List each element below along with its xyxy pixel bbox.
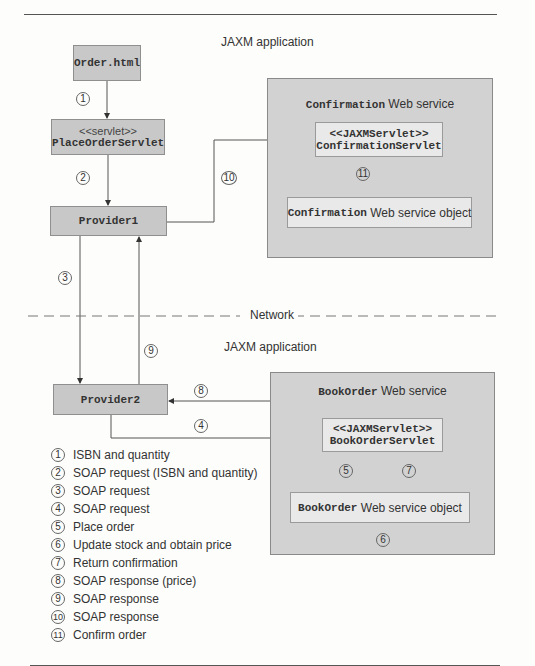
step-marker-7: 7	[402, 464, 416, 478]
confirmation-servlet-node: <<JAXMServlet>> ConfirmationServlet	[315, 122, 443, 157]
jaxm-servlet-stereotype: <<JAXMServlet>>	[333, 423, 432, 435]
bottom-application-label: JAXM application	[224, 340, 317, 354]
legend-item: 3SOAP request	[51, 482, 258, 500]
step-marker-3: 3	[58, 271, 72, 285]
jaxm-servlet-stereotype: <<JAXMServlet>>	[329, 128, 428, 140]
step-number: 2	[51, 466, 65, 480]
legend-item: 2SOAP request (ISBN and quantity)	[51, 464, 258, 482]
servlet-stereotype: <<servlet>>	[79, 125, 137, 137]
step-marker-8: 8	[194, 384, 208, 398]
step-marker-11: 11	[356, 167, 370, 181]
provider2-label: Provider2	[81, 394, 140, 406]
legend-item: 1ISBN and quantity	[51, 446, 258, 464]
confirmation-web-service: Confirmation Web service	[267, 78, 493, 258]
confirmation-service-title: Confirmation Web service	[268, 94, 492, 112]
provider1-node: Provider1	[50, 206, 167, 236]
provider1-label: Provider1	[79, 215, 138, 227]
legend-item: 6Update stock and obtain price	[51, 536, 258, 554]
legend-item: 8SOAP response (price)	[51, 572, 258, 590]
step-number: 11	[51, 628, 65, 642]
step-number: 10	[51, 610, 65, 624]
confirmation-object-node: Confirmation Web service object	[287, 197, 472, 228]
step-number: 9	[51, 592, 65, 606]
bookorder-web-service: BookOrder Web service	[270, 372, 495, 555]
step-number: 8	[51, 574, 65, 588]
step-marker-9: 9	[144, 344, 158, 358]
order-html-label: Order.html	[74, 57, 140, 69]
step-number: 1	[51, 448, 65, 462]
legend: 1ISBN and quantity 2SOAP request (ISBN a…	[51, 446, 258, 644]
step-marker-2: 2	[76, 171, 90, 185]
step-number: 6	[51, 538, 65, 552]
step-number: 4	[51, 502, 65, 516]
place-order-servlet-label: PlaceOrderServlet	[52, 137, 164, 149]
confirmation-servlet-label: ConfirmationServlet	[316, 140, 441, 152]
provider2-node: Provider2	[53, 384, 168, 415]
bookorder-servlet-node: <<JAXMServlet>> BookOrderServlet	[322, 418, 443, 452]
step-marker-4: 4	[194, 419, 208, 433]
step-marker-6: 6	[376, 533, 390, 547]
step-number: 7	[51, 556, 65, 570]
legend-item: 10SOAP response	[51, 608, 258, 626]
step-marker-5: 5	[339, 464, 353, 478]
legend-item: 11Confirm order	[51, 626, 258, 644]
step-number: 5	[51, 520, 65, 534]
step-number: 3	[51, 484, 65, 498]
top-application-label: JAXM application	[221, 35, 314, 49]
step-marker-10: 10	[221, 171, 237, 185]
bookorder-servlet-label: BookOrderServlet	[330, 435, 436, 447]
legend-item: 5Place order	[51, 518, 258, 536]
legend-item: 4SOAP request	[51, 500, 258, 518]
legend-item: 9SOAP response	[51, 590, 258, 608]
bookorder-service-title: BookOrder Web service	[271, 381, 494, 399]
network-label: Network	[246, 308, 298, 322]
legend-item: 7Return confirmation	[51, 554, 258, 572]
step-marker-1: 1	[76, 92, 90, 106]
order-html-node: Order.html	[73, 45, 141, 81]
bookorder-object-node: BookOrder Web service object	[290, 492, 470, 523]
place-order-servlet-node: <<servlet>> PlaceOrderServlet	[51, 119, 165, 155]
